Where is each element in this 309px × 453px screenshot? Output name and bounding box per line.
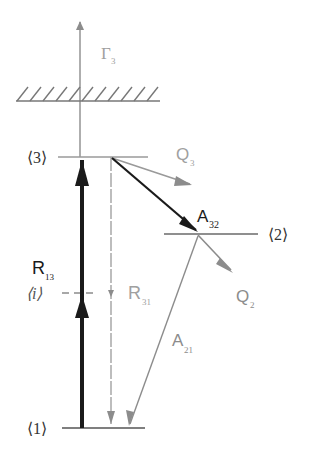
a32-arrow xyxy=(112,158,198,232)
svg-text:32: 32 xyxy=(209,219,219,230)
level-3-label: ⟨3⟩ xyxy=(27,149,47,166)
svg-text:Γ: Γ xyxy=(101,44,111,63)
gamma3-label: Γ 3 xyxy=(101,44,116,66)
svg-text:2: 2 xyxy=(250,300,255,310)
svg-text:⟨2⟩: ⟨2⟩ xyxy=(268,226,288,243)
svg-text:13: 13 xyxy=(45,272,55,282)
continuum-hatch xyxy=(16,87,160,101)
level-2-label: ⟨2⟩ xyxy=(268,226,288,243)
svg-text:⟨1⟩: ⟨1⟩ xyxy=(27,420,47,437)
svg-text:31: 31 xyxy=(142,297,151,307)
q2-arrow xyxy=(198,235,233,273)
svg-text:⟨3⟩: ⟨3⟩ xyxy=(27,149,47,166)
q3-label: Q 3 xyxy=(176,145,195,168)
r13-arrow xyxy=(75,160,89,428)
svg-text:3: 3 xyxy=(111,56,116,66)
level-i-label: ⟨i⟩ xyxy=(26,285,43,302)
q2-label: Q 2 xyxy=(236,287,255,310)
svg-text:⟨i⟩: ⟨i⟩ xyxy=(26,285,43,302)
svg-text:A: A xyxy=(172,331,184,350)
a21-arrow xyxy=(126,236,198,426)
svg-text:Q: Q xyxy=(176,145,189,164)
svg-text:R: R xyxy=(128,283,141,303)
energy-level-diagram: ⟨3⟩ ⟨2⟩ ⟨i⟩ ⟨1⟩ Γ 3 Q 3 A 32 R 13 R 31 Q… xyxy=(0,0,309,453)
svg-text:Q: Q xyxy=(236,287,249,306)
r31-arrow xyxy=(107,157,115,424)
level-1-label: ⟨1⟩ xyxy=(27,420,47,437)
svg-text:21: 21 xyxy=(184,345,193,355)
svg-text:A: A xyxy=(197,207,209,226)
svg-text:R: R xyxy=(32,258,45,278)
r31-label: R 31 xyxy=(128,283,151,307)
svg-text:3: 3 xyxy=(190,158,195,168)
a21-label: A 21 xyxy=(172,331,193,355)
a32-label: A 32 xyxy=(197,207,219,230)
r13-label: R 13 xyxy=(32,258,55,282)
